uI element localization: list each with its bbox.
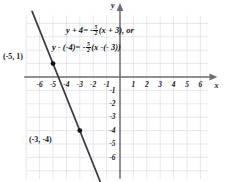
eq1-lhs: y + 4	[66, 25, 83, 35]
y-tick-neg1: -1	[109, 87, 115, 95]
eq2-fraction: 52	[86, 42, 91, 55]
x-tick-neg4: -4	[63, 81, 69, 89]
y-tick-neg5: -5	[109, 140, 115, 148]
eq1-rhs: (x + 3), or	[99, 25, 134, 35]
x-tick-6: 6	[199, 81, 203, 89]
x-tick-2: 2	[145, 81, 149, 89]
eq2-rhs: (x -(- 3))	[91, 42, 121, 52]
point-label-upper: (-5, 1)	[3, 53, 23, 61]
eq2-operator: = -	[76, 42, 86, 52]
equation-line-1: y + 4= -52(x + 3), or	[66, 25, 134, 38]
y-axis-label: y	[111, 2, 115, 10]
x-tick-neg5: -5	[50, 81, 56, 89]
equation-line-2: y - (-4)= -52(x -(- 3))	[52, 42, 121, 55]
eq1-denominator: 2	[93, 30, 98, 37]
x-tick-neg3: -3	[77, 81, 83, 89]
x-tick-neg2: -2	[90, 81, 96, 89]
y-tick-neg2: -2	[109, 100, 115, 108]
x-tick-5: 5	[185, 81, 189, 89]
x-tick-3: 3	[158, 81, 162, 89]
y-tick-neg6: -6	[109, 154, 115, 162]
eq2-lhs: y - (-4)	[52, 42, 76, 52]
eq2-denominator: 2	[86, 47, 91, 54]
y-tick-neg4: -4	[109, 127, 115, 135]
x-tick-4: 4	[172, 81, 176, 89]
point-label-lower: (-3, -4)	[29, 136, 52, 144]
x-axis-label: x	[214, 82, 218, 90]
graph-figure: -6-5-4-3-2-1123456-1-2-3-4-5-6 y x (-5, …	[0, 0, 232, 182]
x-tick-1: 1	[132, 81, 136, 89]
x-tick-neg6: -6	[36, 81, 42, 89]
eq1-operator: = -	[83, 25, 93, 35]
gridlines	[26, 15, 208, 178]
y-tick-neg3: -3	[109, 113, 115, 121]
eq1-fraction: 52	[93, 25, 98, 38]
